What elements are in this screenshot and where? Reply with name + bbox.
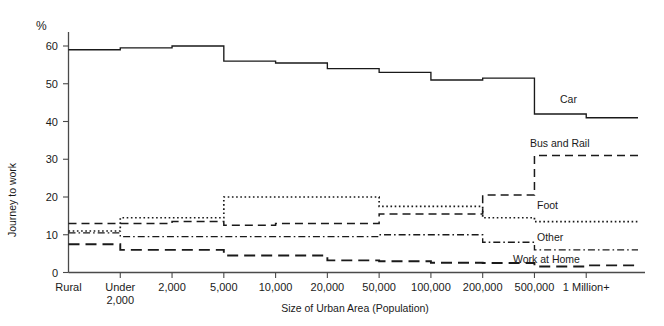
y-axis-ticks <box>63 46 69 273</box>
chart-container: 0102030405060 RuralUnder2,0002,0005,0001… <box>0 0 664 326</box>
series-label-bus-and-rail: Bus and Rail <box>530 137 590 149</box>
journey-to-work-step-chart: 0102030405060 RuralUnder2,0002,0005,0001… <box>0 0 664 326</box>
x-tick-label-6: 50,000 <box>362 281 396 293</box>
x-tick-label-9: 500,000 <box>515 281 555 293</box>
x-axis-ticks <box>120 273 586 279</box>
percent-unit-label: % <box>36 19 47 33</box>
series-label-other: Other <box>537 231 564 243</box>
y-tick-label-10: 10 <box>46 229 58 241</box>
series-label-work-at-home: Work at Home <box>513 253 580 265</box>
x-axis-title: Size of Urban Area (Population) <box>281 302 429 314</box>
y-tick-label-40: 40 <box>46 116 58 128</box>
x-tick-label-5: 20,000 <box>311 281 345 293</box>
y-tick-label-0: 0 <box>52 267 58 279</box>
x-tick-label-0: Rural <box>55 281 81 293</box>
y-axis-tick-labels: 0102030405060 <box>46 40 58 279</box>
y-tick-label-30: 30 <box>46 153 58 165</box>
y-tick-label-20: 20 <box>46 191 58 203</box>
y-tick-label-60: 60 <box>46 40 58 52</box>
series-line-car <box>69 46 639 118</box>
series-inline-labels: CarBus and RailFootOtherWork at Home <box>513 93 590 265</box>
x-tick-label-10: 1 Million+ <box>563 281 610 293</box>
x-tick-label-7: 100,000 <box>411 281 451 293</box>
x-tick-label-8: 200,000 <box>463 281 503 293</box>
y-axis-title: Journey to work <box>6 162 18 237</box>
series-line-bus-and-rail <box>69 155 639 225</box>
x-tick-label-3: 5,000 <box>210 281 238 293</box>
x-tick-label-2: 2,000 <box>158 281 186 293</box>
y-tick-label-50: 50 <box>46 78 58 90</box>
series-label-foot: Foot <box>537 199 558 211</box>
series-label-car: Car <box>560 93 577 105</box>
x-tick-label-4: 10,000 <box>259 281 293 293</box>
x-tick-label-1: Under2,000 <box>105 281 135 306</box>
